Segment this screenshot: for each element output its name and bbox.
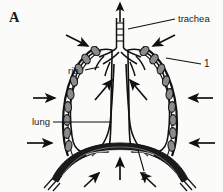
leader-one [166, 58, 201, 64]
trachea-cartilage-rings [117, 23, 124, 41]
anatomy-figure-panel: A trachea 1 rib lung 2 [0, 0, 223, 192]
label-rib: rib [68, 66, 79, 76]
label-trachea: trachea [178, 14, 210, 24]
mediastinum-outline [92, 64, 148, 156]
thorax-diagram-svg [0, 0, 223, 192]
rib-expansion-arrows [27, 35, 215, 143]
leader-trachea [128, 19, 175, 29]
label-lung: lung [32, 117, 50, 127]
rib-cage-left [63, 45, 102, 157]
label-callout-2: 2 [141, 172, 147, 182]
label-callout-1: 1 [204, 59, 210, 69]
intrathoracic-arrows [95, 80, 147, 100]
bronchi-structure [95, 48, 145, 76]
leader-rib [85, 67, 99, 70]
rib-cage-right [138, 45, 177, 157]
panel-letter: A [9, 10, 20, 25]
